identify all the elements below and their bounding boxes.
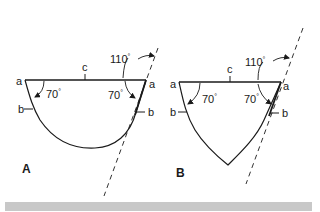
angle-label-left-a: 70° (46, 88, 61, 100)
label-b-right-a: b (148, 106, 154, 118)
chord-right-a (135, 80, 146, 115)
angle-label-left-b: 70° (202, 93, 217, 105)
tangent-dashed-line-b (246, 28, 303, 184)
footer-gray-bar (5, 202, 312, 211)
label-a-left-b: a (170, 78, 177, 90)
angle-label-right-a: 70° (108, 89, 123, 101)
chord-right-b (269, 82, 281, 116)
label-a-right-a: a (149, 78, 156, 90)
label-c-b: c (227, 63, 233, 75)
diagram-canvas: a a c b b 70° 70° 110° A a a c b b 70° 7… (0, 0, 320, 212)
tangent-dashed-line-a (104, 48, 158, 196)
label-a-left-a: a (16, 75, 23, 87)
angle-arc-right-b (258, 84, 271, 104)
angle-label-right-b: 70° (244, 93, 259, 105)
angle-arc-right-a (125, 81, 135, 98)
curved-profile-b (179, 82, 281, 165)
panel-a: a a c b b 70° 70° 110° A (16, 48, 158, 196)
label-a-right-b: a (283, 80, 290, 92)
angle-arc-exterior-arrow-a (138, 55, 154, 59)
label-b-right-b: b (282, 107, 288, 119)
label-c-a: c (82, 61, 88, 73)
angle-arc-left-b (188, 83, 200, 104)
angle-arc-exterior-arrow-b (273, 57, 289, 61)
panel-b: a a c b b 70° 70° 110° B (170, 28, 303, 184)
angle-arc-left-a (35, 81, 44, 97)
angle-label-exterior-a: 110° (110, 53, 131, 65)
label-b-left-a: b (18, 103, 24, 115)
label-b-left-b: b (170, 106, 176, 118)
panel-label-b: B (176, 166, 185, 180)
panel-label-a: A (22, 162, 31, 176)
angle-label-exterior-b: 110° (245, 56, 266, 68)
